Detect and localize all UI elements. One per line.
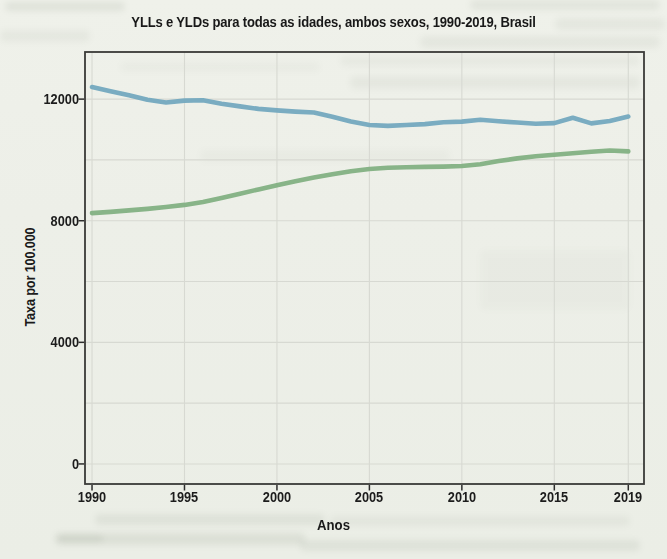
y-tick-label: 8000 bbox=[33, 213, 79, 229]
plot-frame bbox=[85, 52, 644, 484]
scanned-chart-page: YLLs e YLDs para todas as idades, ambos … bbox=[0, 0, 667, 559]
series-line-blue bbox=[92, 87, 628, 126]
x-tick-label: 2019 bbox=[609, 489, 648, 505]
y-tick-label: 0 bbox=[33, 456, 79, 472]
y-tick-label: 12000 bbox=[33, 91, 79, 107]
x-tick-label: 2010 bbox=[442, 489, 481, 505]
x-tick-label: 1990 bbox=[73, 489, 112, 505]
x-tick-label: 2015 bbox=[535, 489, 574, 505]
x-tick-label: 1995 bbox=[165, 489, 204, 505]
x-tick-label: 2000 bbox=[258, 489, 297, 505]
plot-area bbox=[0, 0, 667, 559]
y-tick-label: 4000 bbox=[33, 334, 79, 350]
x-tick-label: 2005 bbox=[350, 489, 389, 505]
